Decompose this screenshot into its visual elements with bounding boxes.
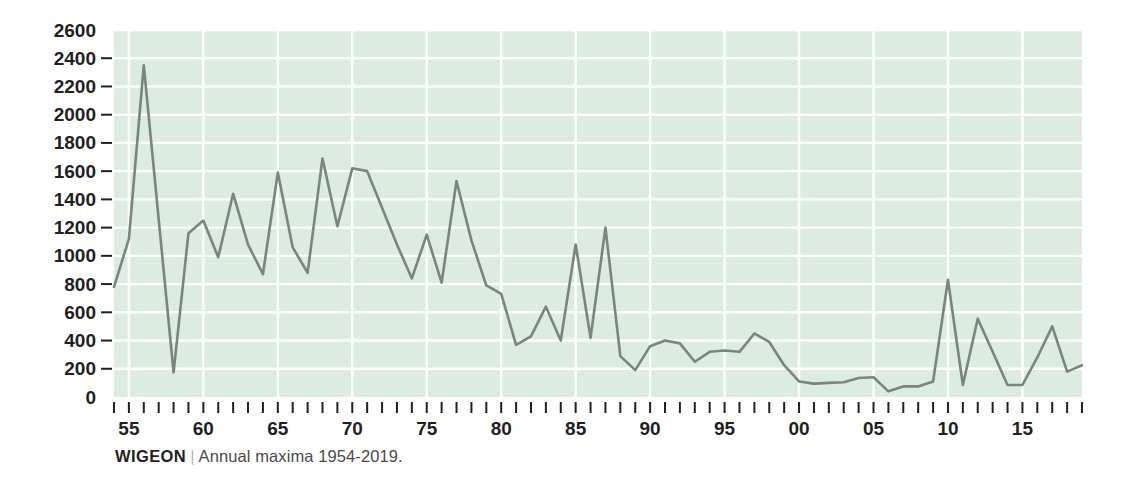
caption-species-name: WIGEON bbox=[115, 447, 186, 465]
y-axis-tick-label: 2400 bbox=[54, 48, 96, 69]
x-axis-tick-label: 95 bbox=[714, 418, 736, 439]
x-axis-tick-label: 80 bbox=[491, 418, 512, 439]
y-axis-tick-label: 2000 bbox=[54, 104, 96, 125]
y-axis-tick-label: 600 bbox=[64, 302, 96, 323]
x-axis-tick-label: 70 bbox=[342, 418, 363, 439]
y-axis-tick-label: 1800 bbox=[54, 132, 96, 153]
x-axis-tick-label: 15 bbox=[1012, 418, 1034, 439]
x-axis-tick-label: 75 bbox=[416, 418, 438, 439]
y-axis-tick-label: 1000 bbox=[54, 245, 96, 266]
y-axis-tick-label: 800 bbox=[64, 274, 96, 295]
wigeon-annual-maxima-figure: 0200400600800100012001400160018002000220… bbox=[0, 0, 1141, 490]
x-axis-tick-label: 55 bbox=[118, 418, 140, 439]
x-axis-tick-label: 85 bbox=[565, 418, 587, 439]
chart-caption: WIGEON|Annual maxima 1954-2019. bbox=[115, 447, 403, 466]
y-axis-tick-label: 1200 bbox=[54, 217, 96, 238]
line-chart: 0200400600800100012001400160018002000220… bbox=[0, 0, 1141, 490]
y-axis-tick-label: 2600 bbox=[54, 20, 96, 41]
caption-description: Annual maxima 1954-2019. bbox=[199, 447, 403, 465]
x-axis-tick-label: 10 bbox=[937, 418, 958, 439]
x-axis-tick-label: 90 bbox=[640, 418, 661, 439]
x-axis: 55606570758085909500051015 bbox=[114, 402, 1082, 439]
y-axis-tick-label: 2200 bbox=[54, 76, 96, 97]
y-axis-tick-label: 0 bbox=[85, 387, 96, 408]
y-axis-tick-label: 400 bbox=[64, 330, 96, 351]
y-axis-tick-label: 1600 bbox=[54, 161, 96, 182]
x-axis-tick-label: 65 bbox=[267, 418, 289, 439]
x-axis-tick-label: 00 bbox=[788, 418, 809, 439]
caption-separator: | bbox=[186, 447, 198, 465]
plot-background bbox=[114, 30, 1082, 397]
y-axis-tick-label: 200 bbox=[64, 358, 96, 379]
x-axis-tick-label: 60 bbox=[193, 418, 214, 439]
x-axis-tick-label: 05 bbox=[863, 418, 885, 439]
y-axis: 0200400600800100012001400160018002000220… bbox=[54, 20, 112, 408]
y-axis-tick-label: 1400 bbox=[54, 189, 96, 210]
